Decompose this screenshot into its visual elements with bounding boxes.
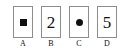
card-cell-a[interactable]: A (13, 6, 33, 48)
card-face-d[interactable]: 5 (97, 6, 117, 38)
card-digit-b: 2 (47, 14, 56, 31)
card-label-b: B (48, 40, 53, 48)
card-face-c[interactable] (69, 6, 89, 38)
filled-circle-icon (76, 19, 83, 26)
card-label-c: C (76, 40, 81, 48)
card-label-d: D (104, 40, 110, 48)
card-cell-b[interactable]: 2 B (41, 6, 61, 48)
card-cell-c[interactable]: C (69, 6, 89, 48)
card-row: A 2 B C 5 D (0, 0, 130, 56)
filled-square-icon (20, 19, 27, 26)
card-digit-d: 5 (103, 14, 112, 31)
card-face-b[interactable]: 2 (41, 6, 61, 38)
card-cell-d[interactable]: 5 D (97, 6, 117, 48)
card-face-a[interactable] (13, 6, 33, 38)
card-label-a: A (20, 40, 26, 48)
